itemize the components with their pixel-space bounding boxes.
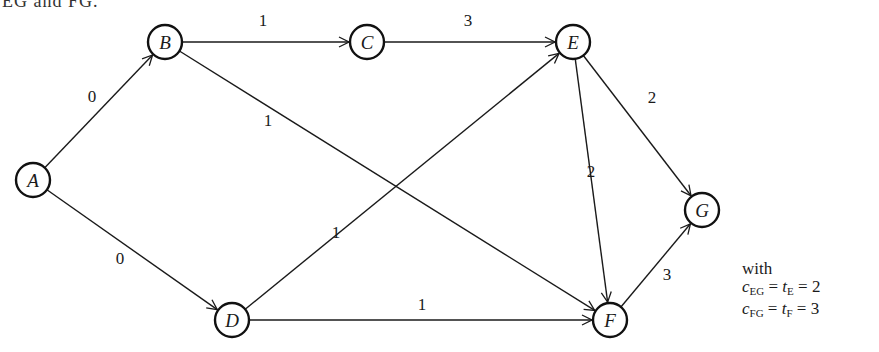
c-subscript: FG	[750, 307, 764, 319]
edge-b-f	[179, 51, 594, 310]
edge-weight-bf: 1	[264, 111, 273, 130]
edge-f-g	[621, 224, 691, 307]
node-a: A	[16, 163, 50, 197]
node-label: A	[25, 170, 39, 191]
node-f: F	[593, 303, 627, 337]
edge-weight-ab: 0	[88, 87, 97, 106]
note-line-fg: cFG = tF = 3	[742, 300, 820, 322]
edge-weight-bc: 1	[259, 11, 268, 30]
edge-weight-de: 1	[332, 223, 341, 242]
node-label: F	[603, 310, 616, 331]
edge-weight-eg: 2	[648, 88, 657, 107]
t-subscript: F	[786, 307, 792, 319]
parameter-note: with cEG = tE = 2 cFG = tF = 3	[742, 260, 820, 322]
node-e: E	[556, 25, 590, 59]
edge-weight-ce: 3	[464, 11, 473, 30]
t-subscript: E	[787, 285, 794, 297]
node-label: E	[566, 32, 579, 53]
edge-a-b	[45, 55, 153, 168]
edges-layer	[45, 42, 691, 320]
value: 3	[811, 299, 820, 318]
edge-weight-fg: 3	[663, 265, 672, 284]
edge-weight-ad: 0	[116, 249, 125, 268]
edge-d-e	[245, 53, 559, 309]
node-label: B	[159, 32, 171, 53]
edge-a-d	[47, 190, 217, 310]
edge-weight-ef: 2	[587, 162, 596, 181]
node-label: D	[224, 310, 239, 331]
node-d: D	[215, 303, 249, 337]
note-line-eg: cEG = tE = 2	[742, 278, 820, 300]
node-g: G	[685, 193, 719, 227]
node-c: C	[350, 25, 384, 59]
edge-e-g	[583, 55, 691, 195]
c-subscript: EG	[750, 285, 765, 297]
note-intro: with	[742, 260, 820, 278]
node-label: C	[361, 32, 374, 53]
node-b: B	[148, 25, 182, 59]
nodes-layer: ABCEGDF	[16, 25, 719, 337]
edge-weight-df: 1	[418, 295, 427, 314]
node-label: G	[695, 200, 709, 221]
value: 2	[812, 277, 821, 296]
